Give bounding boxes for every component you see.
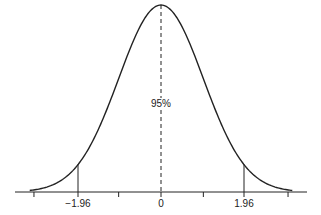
center-annotation-95-percent: 95% bbox=[150, 98, 172, 109]
tick-label-zero: 0 bbox=[158, 198, 164, 209]
x-axis-ticks bbox=[34, 192, 288, 197]
tick-label-pos-1-96: 1.96 bbox=[234, 198, 253, 209]
tick-label-neg-1-96: −1.96 bbox=[65, 198, 90, 209]
